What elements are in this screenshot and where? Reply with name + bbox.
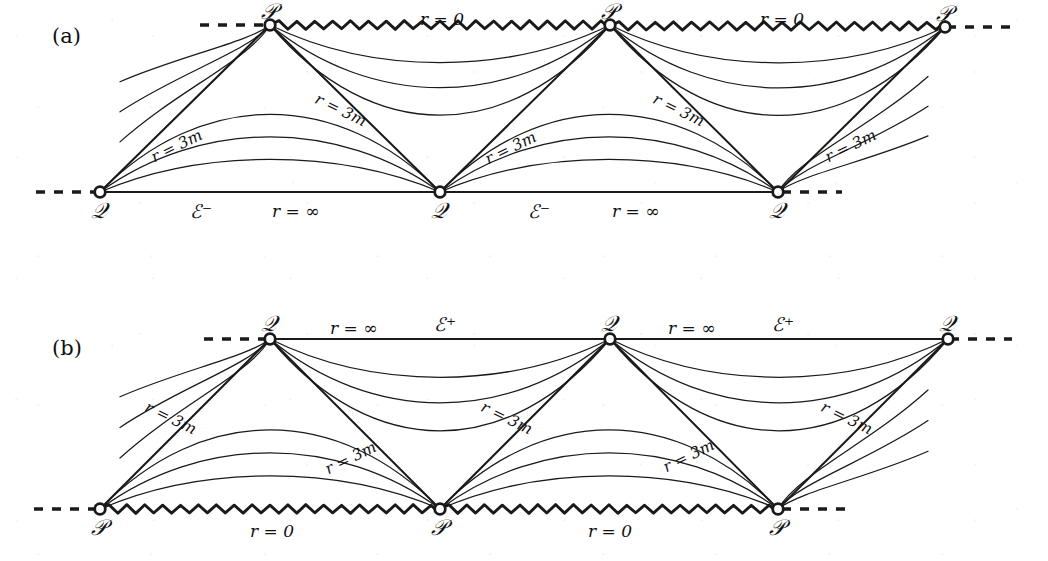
figure-root: (a)r = 0r = 0r = ∞r = ∞ℰ⁻ℰ⁻r = 3mr = 3mr… [0,0,1048,561]
diagram-geometry [34,21,1012,514]
constant-r-curve [610,339,948,431]
constant-r-curve [610,339,948,377]
vertex-node[interactable] [773,504,784,515]
vertex-label-bottom: 𝒬 [431,198,447,223]
constant-r-curve [440,430,778,509]
scri-label: ℰ⁻ [190,200,212,222]
constant-r-curve [610,25,945,88]
constant-r-curve [100,159,440,192]
panel-label-b: (b) [52,336,82,360]
singularity-zigzag [440,505,778,514]
vertex-label-top: 𝒬 [261,311,277,336]
constant-r-curve-edge [120,339,270,397]
vertex-node[interactable] [435,504,446,515]
conformal-diagram-svg [0,0,1048,561]
r-zero-label: r = 0 [760,9,804,29]
vertex-label-bottom: 𝒫 [769,515,785,540]
vertex-label-bottom: 𝒬 [769,198,785,223]
vertex-label-bottom: 𝒫 [431,515,447,540]
vertex-label-bottom: 𝒫 [91,515,107,540]
vertex-label-top: 𝒬 [939,311,955,336]
r-infinity-label: r = ∞ [668,318,715,338]
r-zero-label: r = 0 [250,521,294,541]
scri-label: ℰ⁻ [528,200,550,222]
constant-r-curve-edge [120,25,270,82]
constant-r-curve [610,339,948,403]
vertex-node[interactable] [435,187,446,198]
r-infinity-label: r = ∞ [272,201,319,221]
constant-r-curve [270,339,610,403]
constant-r-curve [270,25,610,88]
panel-label-a: (a) [52,24,81,48]
scri-label: ℰ⁺ [772,313,794,335]
vertex-node[interactable] [95,187,106,198]
vertex-label-top: 𝒫 [261,0,277,24]
constant-r-curve [610,25,945,63]
vertex-label-bottom: 𝒬 [91,198,107,223]
scri-label: ℰ⁺ [434,313,456,335]
constant-r-curve [440,453,778,509]
vertex-label-top: 𝒫 [601,0,617,24]
r-infinity-label: r = ∞ [612,201,659,221]
r-zero-label: r = 0 [420,9,464,29]
constant-r-curve [270,339,610,431]
vertex-label-top: 𝒫 [936,1,952,26]
r-3m-null-line [778,27,945,192]
singularity-zigzag [100,505,440,514]
diagram-vertices [95,20,954,515]
constant-r-curve [270,339,610,377]
constant-r-curve [100,430,440,509]
vertex-node[interactable] [95,504,106,515]
constant-r-curve-edge [778,451,928,509]
constant-r-curve [100,137,440,192]
vertex-label-top: 𝒬 [601,311,617,336]
constant-r-curve [100,453,440,509]
vertex-node[interactable] [773,187,784,198]
r-zero-label: r = 0 [588,521,632,541]
r-infinity-label: r = ∞ [330,318,377,338]
constant-r-curve [270,25,610,63]
